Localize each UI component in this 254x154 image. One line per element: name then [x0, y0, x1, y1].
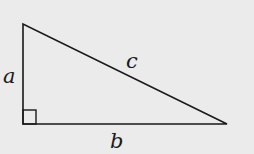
triangle-svg: a c b — [0, 0, 254, 154]
label-side-b: b — [110, 129, 123, 153]
label-side-c: c — [126, 49, 138, 73]
right-angle-marker-icon — [23, 110, 36, 124]
triangle-outline — [23, 24, 227, 124]
label-side-a: a — [3, 64, 16, 88]
right-triangle-diagram: a c b — [0, 0, 254, 154]
